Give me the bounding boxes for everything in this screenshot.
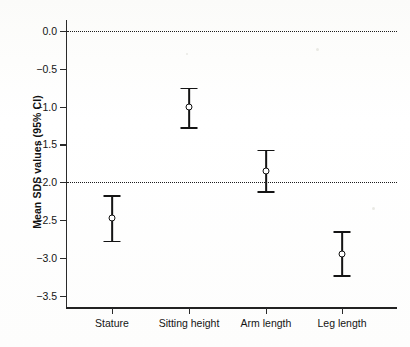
x-tick-arm-length — [266, 308, 267, 314]
scan-speckle — [186, 53, 188, 55]
y-tick-5 — [60, 220, 66, 221]
errorbar-cap-lower-leg-length — [334, 275, 351, 277]
x-tick-label-stature: Stature — [95, 317, 129, 329]
x-tick-leg-length — [342, 308, 343, 314]
y-axis-line — [66, 20, 67, 308]
x-axis-line — [66, 307, 397, 309]
errorbar-cap-lower-sitting-height — [181, 127, 198, 129]
y-tick-6 — [60, 258, 66, 259]
data-point-arm-length — [263, 167, 270, 174]
reference-line-minus-two — [67, 182, 397, 183]
x-tick-label-sitting-height: Sitting height — [159, 317, 220, 329]
y-tick-4 — [60, 182, 66, 183]
y-tick-label-6: −3.0 — [36, 252, 57, 264]
y-tick-label-3: −1.5 — [36, 138, 57, 150]
y-tick-7 — [60, 296, 66, 297]
y-tick-label-7: −3.5 — [36, 290, 57, 302]
errorbar-cap-lower-stature — [104, 241, 121, 243]
data-point-sitting-height — [186, 103, 193, 110]
reference-line-zero — [67, 31, 397, 32]
scan-speckle — [372, 207, 375, 210]
y-tick-label-1: −0.5 — [36, 63, 57, 75]
y-tick-2 — [60, 107, 66, 108]
x-tick-label-arm-length: Arm length — [241, 317, 292, 329]
scan-speckle — [316, 48, 319, 51]
errorbar-cap-lower-arm-length — [258, 191, 275, 193]
data-point-leg-length — [339, 251, 346, 258]
y-axis-label: Mean SDS values (95% CI) — [31, 62, 43, 262]
y-tick-3 — [60, 144, 66, 145]
y-tick-1 — [60, 69, 66, 70]
y-tick-0 — [60, 31, 66, 32]
data-point-stature — [109, 214, 116, 221]
x-tick-label-leg-length: Leg length — [317, 317, 366, 329]
chart-figure: Mean SDS values (95% CI) 0.0 −0.5 −1.0 −… — [0, 0, 410, 347]
y-tick-label-5: −2.5 — [36, 214, 57, 226]
x-tick-stature — [112, 308, 113, 314]
x-tick-sitting-height — [189, 308, 190, 314]
y-tick-label-0: 0.0 — [42, 25, 57, 37]
y-tick-label-2: −1.0 — [36, 101, 57, 113]
y-tick-label-4: −2.0 — [36, 176, 57, 188]
